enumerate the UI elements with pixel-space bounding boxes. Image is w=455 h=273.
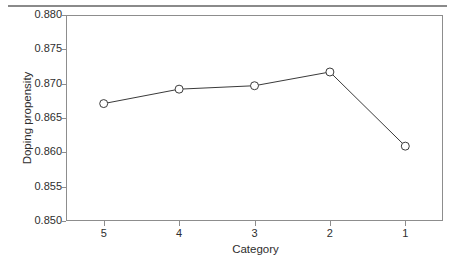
- y-axis-tick-mark: [62, 187, 66, 188]
- data-point-marker: [326, 68, 334, 76]
- data-point-marker: [175, 85, 183, 93]
- chart-figure: 0.8500.8550.8600.8650.8700.8750.880 5432…: [0, 0, 455, 273]
- y-axis-title-text: Doping propensity: [21, 72, 33, 165]
- header-divider: [8, 5, 447, 7]
- y-axis-tick-mark: [62, 15, 66, 16]
- y-axis-title: Doping propensity: [21, 48, 33, 188]
- y-axis-tick-label: 0.880: [0, 8, 62, 20]
- x-axis-tick-label: 1: [402, 227, 408, 239]
- x-axis-tick-label: 2: [327, 227, 333, 239]
- x-axis-tick-label: 5: [101, 227, 107, 239]
- y-axis-tick-mark: [62, 118, 66, 119]
- x-axis-tick-mark: [330, 221, 331, 226]
- x-axis-tick-mark: [179, 221, 180, 226]
- y-axis-tick-label: 0.850: [0, 214, 62, 226]
- x-axis-tick-mark: [104, 221, 105, 226]
- x-axis-tick-mark: [405, 221, 406, 226]
- x-axis-title-text: Category: [232, 243, 279, 255]
- x-axis-tick-label: 3: [251, 227, 257, 239]
- x-axis-tick-mark: [255, 221, 256, 226]
- line-chart-plot: [66, 15, 443, 221]
- data-point-marker: [401, 142, 409, 150]
- data-point-marker: [251, 82, 259, 90]
- y-axis-tick-mark: [62, 49, 66, 50]
- data-point-marker: [100, 100, 108, 108]
- x-axis-tick-label: 4: [176, 227, 182, 239]
- y-axis-tick-mark: [62, 84, 66, 85]
- x-axis-title: Category: [0, 243, 455, 255]
- y-axis-tick-mark: [62, 221, 66, 222]
- y-axis-tick-mark: [62, 152, 66, 153]
